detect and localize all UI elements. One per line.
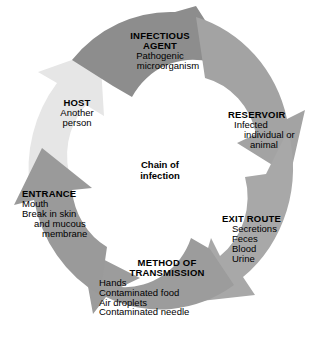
label-exit-route-item-3: Urine — [222, 254, 318, 264]
label-method-of-transmission: METHOD OF TRANSMISSION Hands Contaminate… — [99, 258, 235, 317]
center-label: Chain of infection — [110, 160, 210, 182]
label-infectious-agent-item-1: microorganism — [108, 61, 212, 71]
label-reservoir: RESERVOIR Infected individual or animal — [228, 110, 320, 150]
label-infectious-agent: INFECTIOUS AGENT Pathogenic microorganis… — [108, 31, 212, 71]
label-host-item-1: person — [38, 118, 116, 128]
label-entrance: ENTRANCE Mouth Break in skin and mucous … — [22, 189, 122, 238]
label-host: HOST Another person — [38, 98, 116, 128]
label-exit-route: EXIT ROUTE Secretions Feces Blood Urine — [222, 214, 318, 263]
chain-of-infection-diagram: INFECTIOUS AGENT Pathogenic microorganis… — [0, 0, 321, 348]
label-method-of-transmission-item-3: Contaminated needle — [99, 307, 235, 317]
center-label-line2: infection — [110, 171, 210, 182]
label-reservoir-item-2: animal — [228, 140, 320, 150]
label-entrance-item-3: membrane — [22, 229, 122, 239]
